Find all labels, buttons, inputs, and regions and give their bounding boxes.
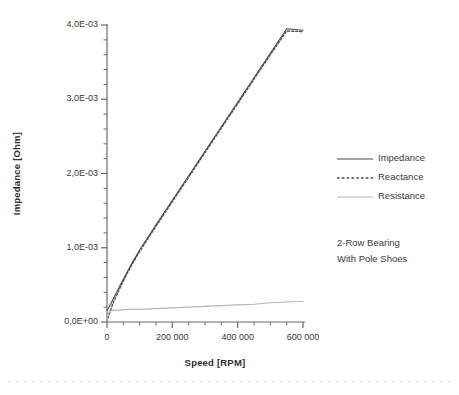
x-tick-label: 0 [72, 332, 142, 342]
chart-figure: Impedance [Ohm] Speed [RPM] 0,0E+001,0E-… [0, 0, 459, 395]
y-tick-label: 4,0E-03 [38, 19, 98, 29]
data-series [107, 29, 303, 322]
legend-label-reactance: Reactance [378, 171, 423, 182]
annotation-line-2: With Pole Shoes [337, 253, 407, 264]
x-tick-label: 200 000 [137, 332, 207, 342]
legend-lines [337, 159, 373, 197]
annotation-line-1: 2-Row Bearing [337, 237, 400, 248]
series-line-resistance [107, 301, 303, 322]
y-tick-label: 0,0E+00 [38, 316, 98, 326]
series-line-reactance [107, 31, 303, 322]
series-line-impedance [107, 29, 303, 310]
x-tick-label: 400 000 [203, 332, 273, 342]
x-tick-label: 600 000 [268, 332, 338, 342]
y-tick-label: 3,0E-03 [38, 93, 98, 103]
x-axis-title: Speed [RPM] [150, 357, 280, 368]
y-tick-label: 2,0E-03 [38, 168, 98, 178]
y-tick-label: 1,0E-03 [38, 242, 98, 252]
legend-label-impedance: Impedance [378, 152, 425, 163]
axes [101, 24, 305, 328]
legend-label-resistance: Resistance [378, 190, 425, 201]
y-axis-title: Impedance [Ohm] [11, 114, 22, 234]
